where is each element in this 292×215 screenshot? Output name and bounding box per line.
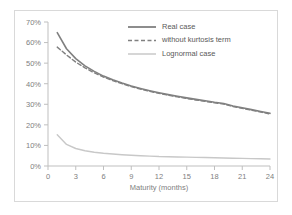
y-axis-tick-labels: 0%10%20%30%40%50%60%70%: [26, 18, 41, 171]
x-tick-label: 9: [129, 172, 133, 181]
x-tick-label: 6: [101, 172, 105, 181]
y-tick-label: 50%: [26, 59, 41, 68]
y-tick-label: 20%: [26, 121, 41, 130]
x-tick-label: 15: [183, 172, 191, 181]
x-tick-label: 12: [155, 172, 163, 181]
y-tick-label: 70%: [26, 18, 41, 27]
series-line-0: [57, 33, 270, 114]
y-axis: 0%10%20%30%40%50%60%70%: [26, 18, 48, 171]
y-tick-label: 40%: [26, 80, 41, 89]
y-tick-label: 30%: [26, 100, 41, 109]
x-axis-title: Maturity (months): [130, 183, 189, 192]
legend-label-2: Lognormal case: [162, 49, 215, 58]
chart-legend: Real casewithout kurtosis termLognormal …: [128, 22, 231, 58]
x-tick-label: 0: [46, 172, 50, 181]
x-tick-label: 21: [238, 172, 246, 181]
x-tick-label: 18: [210, 172, 218, 181]
chart-canvas: 0%10%20%30%40%50%60%70% 03691215182124 M…: [0, 0, 292, 215]
y-tick-label: 60%: [26, 38, 41, 47]
x-axis: 03691215182124: [46, 166, 274, 181]
x-tick-label: 3: [74, 172, 78, 181]
x-axis-tick-labels: 03691215182124: [46, 172, 274, 181]
x-axis-ticks: [48, 166, 270, 170]
y-axis-ticks: [44, 22, 48, 166]
x-tick-label: 24: [266, 172, 274, 181]
legend-label-0: Real case: [162, 22, 195, 31]
y-tick-label: 10%: [26, 141, 41, 150]
y-tick-label: 0%: [30, 162, 41, 171]
series-line-2: [57, 135, 270, 159]
legend-label-1: without kurtosis term: [161, 35, 231, 44]
